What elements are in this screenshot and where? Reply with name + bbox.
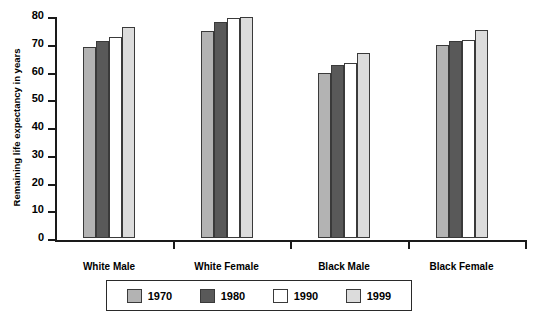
bar-white-male-1999 bbox=[122, 27, 135, 238]
category-label-black-male: Black Male bbox=[318, 261, 370, 272]
y-tick-60: 60 bbox=[48, 73, 55, 75]
x-group-separator-2 bbox=[290, 240, 292, 249]
y-tick-0: 0 bbox=[48, 239, 55, 241]
legend-swatch-1999 bbox=[346, 289, 361, 303]
y-tick-label-80: 80 bbox=[32, 9, 44, 21]
legend-label-1999: 1999 bbox=[367, 290, 391, 302]
y-axis-line bbox=[55, 17, 57, 241]
bar-chart: Remaining life expectancy in years 01020… bbox=[0, 0, 534, 325]
legend-swatch-1990 bbox=[273, 289, 288, 303]
legend-item-1970[interactable]: 1970 bbox=[127, 289, 172, 303]
y-tick-label-20: 20 bbox=[32, 176, 44, 188]
category-label-white-male: White Male bbox=[83, 261, 135, 272]
x-group-separator-3 bbox=[408, 240, 410, 249]
plot-area: 01020304050607080 White MaleWhite Female… bbox=[55, 17, 525, 240]
y-tick-30: 30 bbox=[48, 156, 55, 158]
bar-black-female-1980 bbox=[449, 41, 462, 238]
bar-black-female-1970 bbox=[436, 45, 449, 238]
bar-white-female-1970 bbox=[201, 31, 214, 238]
x-group-separator-4 bbox=[525, 240, 527, 249]
bar-black-female-1999 bbox=[475, 30, 488, 238]
y-tick-label-70: 70 bbox=[32, 37, 44, 49]
bar-black-female-1990 bbox=[462, 40, 475, 238]
y-axis-title: Remaining life expectancy in years bbox=[11, 28, 22, 228]
y-tick-80: 80 bbox=[48, 17, 55, 19]
y-tick-label-40: 40 bbox=[32, 120, 44, 132]
bar-white-female-1999 bbox=[240, 17, 253, 238]
legend-label-1990: 1990 bbox=[294, 290, 318, 302]
bar-black-male-1999 bbox=[357, 53, 370, 238]
legend-item-1990[interactable]: 1990 bbox=[273, 289, 318, 303]
bar-white-female-1990 bbox=[227, 18, 240, 238]
bar-white-male-1990 bbox=[109, 37, 122, 238]
y-tick-label-50: 50 bbox=[32, 92, 44, 104]
category-label-white-female: White Female bbox=[194, 261, 258, 272]
y-tick-40: 40 bbox=[48, 128, 55, 130]
legend-label-1970: 1970 bbox=[148, 290, 172, 302]
bar-white-female-1980 bbox=[214, 22, 227, 238]
y-tick-label-30: 30 bbox=[32, 148, 44, 160]
y-tick-50: 50 bbox=[48, 100, 55, 102]
legend-item-1999[interactable]: 1999 bbox=[346, 289, 391, 303]
bar-black-male-1970 bbox=[318, 73, 331, 238]
legend-item-1980[interactable]: 1980 bbox=[200, 289, 245, 303]
category-label-black-female: Black Female bbox=[430, 261, 494, 272]
y-tick-10: 10 bbox=[48, 211, 55, 213]
bar-white-male-1970 bbox=[83, 47, 96, 238]
legend-swatch-1970 bbox=[127, 289, 142, 303]
y-tick-label-10: 10 bbox=[32, 203, 44, 215]
bar-white-male-1980 bbox=[96, 41, 109, 238]
y-tick-20: 20 bbox=[48, 184, 55, 186]
legend-label-1980: 1980 bbox=[221, 290, 245, 302]
chart-legend: 1970198019901999 bbox=[106, 280, 412, 311]
legend-swatch-1980 bbox=[200, 289, 215, 303]
x-group-separator-1 bbox=[173, 240, 175, 249]
bar-black-male-1990 bbox=[344, 63, 357, 238]
bar-black-male-1980 bbox=[331, 65, 344, 238]
y-tick-label-0: 0 bbox=[38, 231, 44, 243]
y-tick-label-60: 60 bbox=[32, 65, 44, 77]
y-tick-70: 70 bbox=[48, 45, 55, 47]
